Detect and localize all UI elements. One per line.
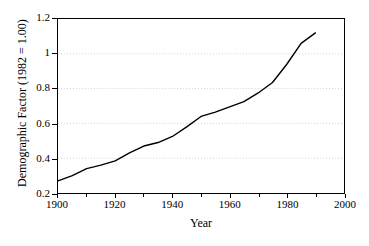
- x-axis-title: Year: [57, 216, 345, 230]
- x-tick-label: 2000: [323, 199, 367, 210]
- x-tick-mark: [287, 194, 288, 198]
- y-axis-title: Demographic Factor (1982 = 1.00): [15, 8, 29, 198]
- y-tick-mark: [52, 159, 57, 160]
- x-tick-label: 1960: [208, 199, 252, 210]
- x-tick-mark-minor: [86, 194, 87, 197]
- x-tick-label: 1920: [93, 199, 137, 210]
- y-tick-mark: [52, 18, 57, 19]
- y-tick-mark: [52, 53, 57, 54]
- x-tick-mark-minor: [259, 194, 260, 197]
- y-tick-mark: [52, 88, 57, 89]
- y-tick-mark: [52, 124, 57, 125]
- x-tick-mark-minor: [316, 194, 317, 197]
- x-tick-mark: [57, 194, 58, 198]
- x-tick-label: 1980: [265, 199, 309, 210]
- demographic-factor-line-chart: 0.20.40.60.811.2 19001920194019601980200…: [0, 0, 369, 246]
- x-tick-mark: [115, 194, 116, 198]
- x-tick-label: 1940: [150, 199, 194, 210]
- x-tick-label: 1900: [35, 199, 79, 210]
- x-tick-mark: [345, 194, 346, 198]
- x-tick-mark: [230, 194, 231, 198]
- x-tick-mark-minor: [143, 194, 144, 197]
- x-tick-mark: [172, 194, 173, 198]
- x-tick-mark-minor: [201, 194, 202, 197]
